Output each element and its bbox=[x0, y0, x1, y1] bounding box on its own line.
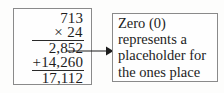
diagram-canvas: 713 × 24 2,852 +14,260 17,112 Zero (0) r… bbox=[0, 0, 224, 93]
partial-product-2-row: +14,260 bbox=[32, 55, 84, 70]
callout-line-1: Zero (0) bbox=[118, 15, 216, 31]
multiplicand-row: 713 bbox=[32, 11, 84, 25]
callout-line-2: represents a bbox=[118, 31, 216, 47]
callout-line-4: the ones place bbox=[118, 64, 216, 80]
product-row: 17,112 bbox=[32, 71, 84, 85]
partial-product-1-row: 2,852 bbox=[32, 41, 84, 55]
multiplication-stack: 713 × 24 2,852 +14,260 17,112 bbox=[32, 11, 84, 85]
callout-text: Zero (0) represents a placeholder for th… bbox=[118, 15, 216, 80]
multiplier-row: × 24 bbox=[32, 25, 84, 40]
multiplication-box: 713 × 24 2,852 +14,260 17,112 bbox=[13, 8, 92, 85]
callout-line-3: placeholder for bbox=[118, 47, 216, 63]
callout-box: Zero (0) represents a placeholder for th… bbox=[112, 13, 218, 82]
